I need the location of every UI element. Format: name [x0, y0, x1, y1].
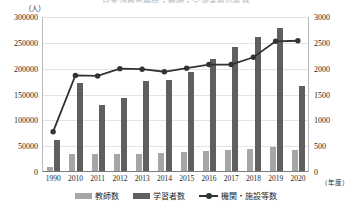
x-axis-tick-2012: 2012 [112, 174, 127, 183]
right-axis-tick-2000: 2000 [314, 64, 350, 73]
line-marker-2011 [95, 73, 100, 78]
line-path-institutions [53, 41, 298, 132]
right-axis-tick-3000: 3000 [314, 13, 350, 22]
left-axis-tick-100000: 100000 [0, 116, 38, 125]
right-axis-tick-500: 500 [314, 142, 350, 151]
x-axis-tick-2010: 2010 [68, 174, 83, 183]
legend-swatch-icon [133, 193, 150, 199]
x-axis-tick-2017: 2017 [224, 174, 239, 183]
legend-item-0: 教師数 [75, 190, 119, 201]
line-marker-2020 [295, 38, 300, 43]
line-marker-1990 [50, 129, 55, 134]
legend-swatch-icon [75, 193, 92, 199]
line-marker-2015 [184, 65, 189, 70]
line-marker-2017 [228, 62, 233, 67]
x-axis-tick-2018: 2018 [246, 174, 261, 183]
line-marker-2013 [139, 66, 144, 71]
line-marker-2016 [206, 62, 211, 67]
x-axis-tick-2011: 2011 [90, 174, 105, 183]
left-axis-tick-250000: 250000 [0, 38, 38, 47]
x-axis-tick-2016: 2016 [201, 174, 216, 183]
x-axis-tick-1990: 1990 [46, 174, 61, 183]
line-marker-2014 [162, 69, 167, 74]
left-axis-tick-0: 0 [0, 168, 38, 177]
right-axis-tick-1000: 1000 [314, 116, 350, 125]
chart-title: 日本語教育機関・教師・学習者数の推移 [0, 0, 352, 3]
left-axis-tick-50000: 50000 [0, 142, 38, 151]
legend-label: 学習者数 [153, 190, 185, 201]
left-axis-tick-200000: 200000 [0, 64, 38, 73]
x-axis-tick-2014: 2014 [157, 174, 172, 183]
left-axis-tick-150000: 150000 [0, 90, 38, 99]
legend-swatch-icon [199, 193, 218, 199]
right-axis-tick-2500: 2500 [314, 38, 350, 47]
chart-container: 日本語教育機関・教師・学習者数の推移 （人） 05000010000015000… [0, 0, 352, 208]
line-marker-2012 [117, 66, 122, 71]
legend-item-2: 機関・施設等数 [199, 190, 277, 201]
line-marker-2018 [251, 55, 256, 60]
left-axis-tick-300000: 300000 [0, 13, 38, 22]
legend-label: 機関・施設等数 [221, 190, 277, 201]
chart-legend: 教師数学習者数機関・施設等数 [0, 190, 352, 201]
line-marker-2019 [273, 39, 278, 44]
x-axis-tick-2020: 2020 [290, 174, 305, 183]
x-axis-tick-2013: 2013 [135, 174, 150, 183]
legend-item-1: 学習者数 [133, 190, 185, 201]
x-axis-tick-2019: 2019 [268, 174, 283, 183]
right-axis-tick-0: 0 [314, 168, 350, 177]
right-axis-tick-1500: 1500 [314, 90, 350, 99]
x-axis-unit-label: （年度） [321, 177, 349, 187]
x-axis-tick-2015: 2015 [179, 174, 194, 183]
legend-label: 教師数 [95, 190, 119, 201]
line-marker-2010 [73, 73, 78, 78]
line-series-layer [42, 17, 309, 172]
